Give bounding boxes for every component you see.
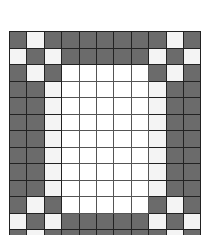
- board-cell-dark[interactable]: [149, 65, 166, 82]
- board-cell-white[interactable]: [80, 65, 97, 82]
- board-cell-dark[interactable]: [62, 49, 79, 66]
- board-cell-white[interactable]: [62, 164, 79, 181]
- board-cell-white[interactable]: [62, 131, 79, 148]
- board-cell-light[interactable]: [27, 65, 44, 82]
- board-cell-dark[interactable]: [184, 82, 201, 99]
- board-cell-white[interactable]: [62, 148, 79, 165]
- board-cell-white[interactable]: [114, 65, 131, 82]
- board-cell-white[interactable]: [62, 181, 79, 198]
- board-cell-dark[interactable]: [184, 181, 201, 198]
- board-cell-dark[interactable]: [62, 230, 79, 235]
- board-cell-light[interactable]: [45, 214, 62, 231]
- board-cell-white[interactable]: [80, 164, 97, 181]
- board-cell-white[interactable]: [80, 115, 97, 132]
- board-cell-white[interactable]: [114, 164, 131, 181]
- board-cell-dark[interactable]: [97, 49, 114, 66]
- board-cell-light[interactable]: [45, 131, 62, 148]
- board-cell-dark[interactable]: [132, 49, 149, 66]
- board-cell-dark[interactable]: [184, 164, 201, 181]
- board-cell-white[interactable]: [114, 98, 131, 115]
- board-cell-dark[interactable]: [10, 164, 27, 181]
- board-cell-light[interactable]: [149, 82, 166, 99]
- board-cell-dark[interactable]: [10, 131, 27, 148]
- board-cell-dark[interactable]: [132, 230, 149, 235]
- board-cell-dark[interactable]: [167, 115, 184, 132]
- board-cell-dark[interactable]: [45, 197, 62, 214]
- board-cell-dark[interactable]: [97, 214, 114, 231]
- board-cell-dark[interactable]: [184, 98, 201, 115]
- board-cell-light[interactable]: [27, 230, 44, 235]
- board-cell-white[interactable]: [97, 115, 114, 132]
- board-cell-white[interactable]: [114, 131, 131, 148]
- board-cell-dark[interactable]: [10, 65, 27, 82]
- board-cell-dark[interactable]: [167, 131, 184, 148]
- board-cell-dark[interactable]: [132, 32, 149, 49]
- board-cell-light[interactable]: [149, 214, 166, 231]
- board-cell-light[interactable]: [149, 131, 166, 148]
- board-cell-white[interactable]: [97, 197, 114, 214]
- board-cell-light[interactable]: [149, 98, 166, 115]
- board-cell-light[interactable]: [10, 214, 27, 231]
- board-cell-white[interactable]: [132, 197, 149, 214]
- board-cell-light[interactable]: [184, 49, 201, 66]
- board-cell-white[interactable]: [80, 197, 97, 214]
- board-cell-dark[interactable]: [27, 82, 44, 99]
- board-cell-light[interactable]: [184, 214, 201, 231]
- board-cell-light[interactable]: [45, 49, 62, 66]
- board-cell-white[interactable]: [97, 82, 114, 99]
- board-cell-dark[interactable]: [167, 82, 184, 99]
- board-cell-dark[interactable]: [167, 98, 184, 115]
- board-cell-white[interactable]: [97, 164, 114, 181]
- board-cell-white[interactable]: [62, 98, 79, 115]
- board-cell-dark[interactable]: [27, 214, 44, 231]
- board-cell-dark[interactable]: [27, 164, 44, 181]
- board-cell-light[interactable]: [167, 65, 184, 82]
- board-cell-dark[interactable]: [184, 131, 201, 148]
- board-cell-white[interactable]: [132, 65, 149, 82]
- board-cell-light[interactable]: [149, 181, 166, 198]
- board-cell-white[interactable]: [132, 131, 149, 148]
- board-cell-dark[interactable]: [10, 197, 27, 214]
- board-cell-dark[interactable]: [184, 148, 201, 165]
- board-cell-white[interactable]: [97, 65, 114, 82]
- board-cell-white[interactable]: [114, 181, 131, 198]
- board-cell-dark[interactable]: [167, 214, 184, 231]
- board-cell-dark[interactable]: [114, 214, 131, 231]
- board-cell-dark[interactable]: [10, 98, 27, 115]
- board-cell-dark[interactable]: [27, 115, 44, 132]
- board-cell-dark[interactable]: [27, 49, 44, 66]
- board-cell-white[interactable]: [132, 181, 149, 198]
- board-cell-dark[interactable]: [10, 148, 27, 165]
- board-cell-dark[interactable]: [10, 230, 27, 235]
- board-cell-white[interactable]: [132, 148, 149, 165]
- board-cell-light[interactable]: [167, 32, 184, 49]
- board-cell-dark[interactable]: [97, 32, 114, 49]
- board-cell-dark[interactable]: [45, 32, 62, 49]
- board-cell-dark[interactable]: [114, 230, 131, 235]
- board-cell-dark[interactable]: [132, 214, 149, 231]
- board-cell-dark[interactable]: [80, 49, 97, 66]
- board-cell-white[interactable]: [114, 82, 131, 99]
- board-cell-light[interactable]: [45, 148, 62, 165]
- board-cell-dark[interactable]: [27, 148, 44, 165]
- board-cell-dark[interactable]: [10, 32, 27, 49]
- board-cell-light[interactable]: [149, 164, 166, 181]
- board-cell-dark[interactable]: [114, 49, 131, 66]
- board-cell-dark[interactable]: [184, 32, 201, 49]
- board-cell-light[interactable]: [45, 98, 62, 115]
- board-cell-dark[interactable]: [45, 230, 62, 235]
- board-cell-white[interactable]: [132, 164, 149, 181]
- board-cell-white[interactable]: [80, 131, 97, 148]
- board-cell-white[interactable]: [132, 98, 149, 115]
- board-cell-light[interactable]: [45, 82, 62, 99]
- board-cell-dark[interactable]: [149, 197, 166, 214]
- board-cell-dark[interactable]: [149, 230, 166, 235]
- board-cell-dark[interactable]: [167, 148, 184, 165]
- board-cell-white[interactable]: [80, 181, 97, 198]
- board-cell-dark[interactable]: [167, 181, 184, 198]
- board-cell-light[interactable]: [10, 49, 27, 66]
- board-cell-dark[interactable]: [80, 230, 97, 235]
- board-cell-light[interactable]: [45, 181, 62, 198]
- board-cell-light[interactable]: [149, 148, 166, 165]
- board-cell-white[interactable]: [62, 115, 79, 132]
